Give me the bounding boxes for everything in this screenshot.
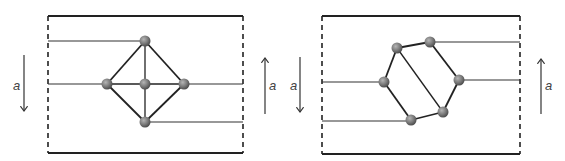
node-bottom [140, 117, 151, 128]
arrow-label-left: a [13, 78, 20, 93]
node-n6 [406, 115, 417, 126]
circuit-diagram: a a a a [0, 0, 565, 161]
bond [145, 41, 184, 84]
bond [397, 48, 443, 112]
bond [384, 82, 411, 120]
arrow-label-right: a [545, 78, 552, 93]
node-n4 [454, 75, 465, 86]
node-n2 [425, 37, 436, 48]
node-n1 [392, 43, 403, 54]
node-left [102, 79, 113, 90]
arrow-label-left: a [290, 78, 297, 93]
right-panel: a a [290, 16, 552, 154]
node-right [179, 79, 190, 90]
left-panel: a a [13, 16, 276, 153]
node-top [140, 36, 151, 47]
arrow-label-right: a [269, 78, 276, 93]
node-center [140, 79, 151, 90]
node-n5 [438, 107, 449, 118]
bond [145, 84, 184, 122]
node-n3 [379, 77, 390, 88]
bond [107, 41, 145, 84]
bond [430, 42, 459, 80]
bond [107, 84, 145, 122]
